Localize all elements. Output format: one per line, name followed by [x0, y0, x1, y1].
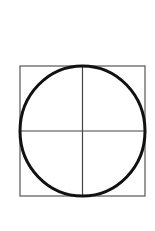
- circle-in-square-diagram: [0, 0, 155, 231]
